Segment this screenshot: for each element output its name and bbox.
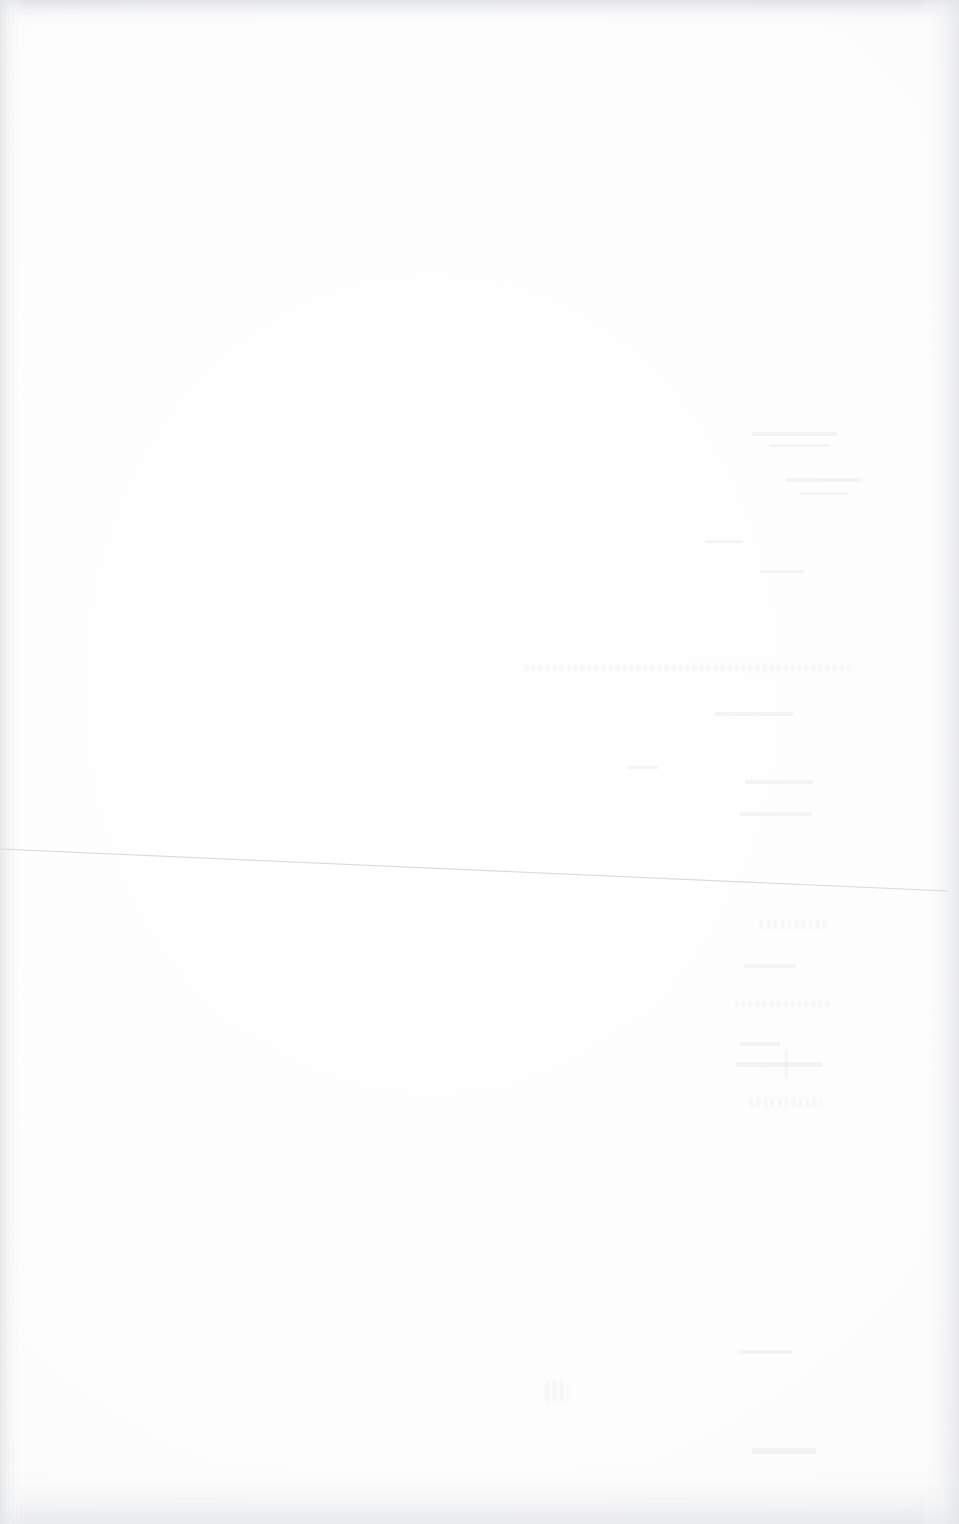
ghost-trace-19 [740,1350,792,1354]
ghost-trace-17 [750,1098,822,1107]
ghost-trace-1 [752,432,838,436]
ghost-trace-16 [785,1050,789,1078]
right-scan-edge [919,0,959,1524]
ghost-trace-3 [786,478,860,482]
ghost-trace-6 [760,570,804,573]
ghost-text-line-1 [525,664,855,671]
ghost-trace-layer [0,0,959,1524]
top-scan-edge [0,0,959,26]
bottom-scan-edge [0,1464,959,1524]
ghost-trace-5 [705,540,743,543]
ghost-trace-20 [752,1448,816,1454]
faint-horizontal-rule [0,849,948,891]
ghost-trace-2 [769,444,829,447]
ghost-trace-10 [740,812,812,816]
ghost-trace-15 [736,1062,822,1067]
ghost-trace-4 [800,492,848,495]
paper-background [0,0,959,1524]
ghost-trace-7 [715,712,793,716]
ghost-trace-9 [745,780,813,784]
ghost-trace-13 [735,1000,831,1007]
left-scan-edge [0,0,26,1524]
rule-line-layer [0,0,959,1524]
ghost-trace-12 [744,964,796,968]
ghost-trace-18 [546,1380,568,1402]
ghost-trace-8 [628,766,658,769]
scan-edge-grain [0,0,959,1524]
scanned-document-page [0,0,959,1524]
ghost-trace-11 [760,920,826,929]
ghost-trace-14 [740,1042,780,1046]
